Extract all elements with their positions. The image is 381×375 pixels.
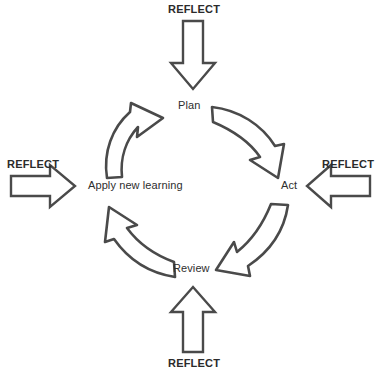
cycle-arrow-apply-to-plan <box>106 103 163 178</box>
reflect-arrow-right <box>307 165 370 207</box>
cycle-arrow-review-to-apply <box>105 207 175 277</box>
node-label-apply-new-learning: Apply new learning <box>88 180 183 191</box>
cycle-arrow-act-to-review <box>216 204 288 276</box>
reflect-arrow-top <box>171 21 215 89</box>
reflective-learning-cycle-diagram: Plan Act Review Apply new learning REFLE… <box>0 0 381 375</box>
reflect-arrow-left <box>11 165 75 207</box>
reflect-label-left: REFLECT <box>7 159 59 170</box>
reflect-arrow-bottom <box>171 287 215 352</box>
node-label-review: Review <box>173 263 210 274</box>
reflect-label-right: REFLECT <box>322 159 374 170</box>
reflect-label-top: REFLECT <box>168 4 220 15</box>
node-label-plan: Plan <box>178 100 200 111</box>
diagram-canvas <box>0 0 381 375</box>
cycle-arrow-plan-to-act <box>212 107 284 178</box>
reflect-label-bottom: REFLECT <box>168 358 220 369</box>
node-label-act: Act <box>281 180 297 191</box>
